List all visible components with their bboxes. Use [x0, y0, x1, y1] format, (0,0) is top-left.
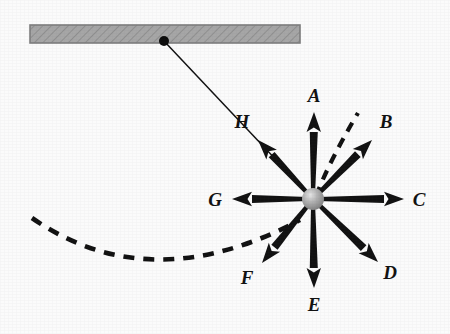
vector-shaft-d — [315, 201, 366, 251]
bob-sphere — [302, 188, 324, 210]
vector-head-a — [307, 112, 321, 132]
vector-label-h: H — [234, 111, 251, 132]
pendulum-bob — [302, 188, 324, 210]
vector-shaft-b — [315, 151, 361, 197]
diagram-canvas: ABCDEFGH — [0, 0, 450, 334]
vector-head-g — [232, 192, 252, 206]
swing-arc-path — [32, 218, 300, 260]
vector-label-c: C — [413, 189, 426, 210]
vector-shaft-a — [310, 132, 318, 194]
pendulum-force-diagram: ABCDEFGH — [0, 0, 450, 334]
vector-label-d: D — [382, 262, 397, 283]
vector-shaft-e — [310, 204, 318, 268]
tangent-dash-path — [316, 113, 358, 196]
vector-label-a: A — [307, 85, 321, 106]
pivot-dot — [159, 36, 169, 46]
tangent-dashed-curve — [316, 113, 358, 196]
vector-shaft-h — [269, 152, 311, 197]
vector-shaft-c — [318, 195, 384, 203]
vector-shaft-f — [271, 202, 311, 250]
vector-label-f: F — [240, 267, 254, 288]
pivot-point — [159, 36, 169, 46]
swing-path-arc — [32, 218, 300, 260]
vector-label-e: E — [307, 294, 321, 315]
vector-shaft-g — [252, 195, 308, 203]
vector-label-b: B — [379, 111, 393, 132]
vector-head-e — [307, 268, 321, 288]
vector-head-c — [384, 192, 404, 206]
vector-label-g: G — [208, 189, 222, 210]
